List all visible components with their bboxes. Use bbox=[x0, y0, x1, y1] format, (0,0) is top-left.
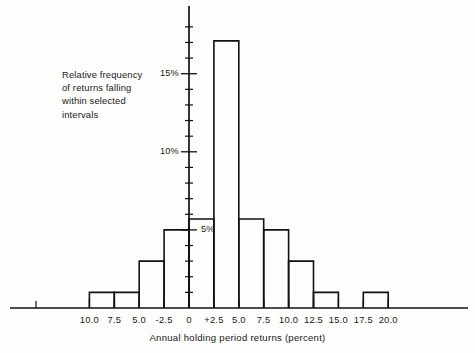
x-axis-tick-label: 10.0 bbox=[279, 314, 298, 325]
histogram-bar bbox=[139, 261, 164, 308]
x-axis-tick-label: 15.0 bbox=[329, 314, 348, 325]
histogram-bar bbox=[214, 41, 239, 308]
y-axis-tick-label: 15% bbox=[147, 68, 179, 78]
x-axis-tick-label: 5.0 bbox=[132, 314, 146, 325]
histogram-bar bbox=[363, 292, 388, 308]
x-axis-tick-label: +2.5 bbox=[204, 314, 223, 325]
x-axis-title: Annual holding period returns (percent) bbox=[0, 332, 475, 343]
x-axis-tick-label: 17.5 bbox=[354, 314, 373, 325]
x-axis-tick-label: 0 bbox=[186, 314, 191, 325]
histogram-bar bbox=[239, 219, 264, 308]
annotation-text-block: Relative frequency of returns falling wi… bbox=[62, 68, 142, 121]
histogram-bar bbox=[264, 230, 289, 308]
x-axis-tick-label: 7.5 bbox=[107, 314, 121, 325]
annotation-line-3: within selected bbox=[62, 94, 142, 107]
histogram-figure: Relative frequency of returns falling wi… bbox=[0, 0, 475, 353]
x-axis-tick-label: 12.5 bbox=[304, 314, 323, 325]
x-axis-tick-label: 10.0 bbox=[80, 314, 99, 325]
histogram-bar bbox=[289, 261, 314, 308]
histogram-bar bbox=[114, 292, 139, 308]
histogram-bar bbox=[314, 292, 339, 308]
annotation-line-1: Relative frequency bbox=[62, 68, 142, 81]
x-axis-tick-label: 7.5 bbox=[257, 314, 271, 325]
histogram-plot-area bbox=[0, 0, 475, 353]
histogram-bar bbox=[89, 292, 114, 308]
x-axis-tick-label: -2.5 bbox=[156, 314, 173, 325]
y-axis-tick-label: 10% bbox=[147, 146, 179, 156]
x-axis-tick-label: 5.0 bbox=[232, 314, 246, 325]
y-axis-tick-label: 5% bbox=[201, 224, 215, 234]
annotation-line-2: of returns falling bbox=[62, 81, 142, 94]
x-axis-tick-label: 20.0 bbox=[379, 314, 398, 325]
histogram-bar bbox=[164, 230, 189, 308]
annotation-line-4: intervals bbox=[62, 108, 142, 121]
